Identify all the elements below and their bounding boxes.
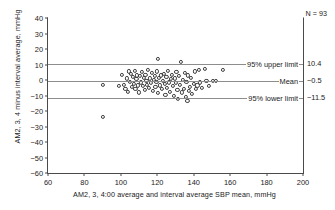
bland-altman-chart: AM2, 3, 4 minus interval average, mmHg 4…: [0, 0, 335, 210]
y-tick-label: −20: [30, 107, 48, 116]
plot-area: 403020100−10−20−30−40−50−606080100120140…: [47, 17, 304, 174]
reference-line-value: −11.5: [307, 92, 325, 101]
data-point: [151, 89, 155, 93]
x-tick-label: 120: [151, 173, 163, 187]
data-point: [175, 88, 179, 92]
x-tick-label: 180: [260, 173, 272, 187]
data-point: [193, 69, 197, 73]
data-point: [189, 76, 193, 80]
data-point: [182, 86, 186, 90]
x-tick-label: 60: [44, 173, 52, 187]
x-tick-label: 200: [297, 173, 309, 187]
y-tick-label: 10: [35, 60, 48, 69]
data-point: [180, 90, 184, 94]
reference-line-value: 10.4: [307, 58, 321, 67]
y-tick-label: 30: [35, 29, 48, 38]
reference-line-label: 95% upper limit: [246, 59, 299, 68]
reference-line-label: Mean: [279, 76, 300, 85]
data-point: [221, 68, 225, 72]
data-point: [193, 87, 197, 91]
data-point: [203, 67, 207, 71]
y-tick-label: −50: [30, 153, 48, 162]
data-point: [197, 68, 201, 72]
data-point: [101, 83, 105, 87]
y-tick-label: −40: [30, 138, 48, 147]
y-tick-label: −10: [30, 91, 48, 100]
data-point: [120, 72, 124, 76]
y-tick-label: 0: [39, 76, 48, 85]
data-point: [200, 86, 204, 90]
data-point: [153, 85, 157, 89]
data-point: [126, 90, 130, 94]
data-point: [190, 92, 194, 96]
data-point: [188, 85, 192, 89]
reference-line-value: −0.5: [307, 75, 322, 84]
data-point: [156, 91, 160, 95]
x-axis-label: AM2, 3, 4:00 average and interval averag…: [47, 190, 302, 199]
data-point: [143, 72, 147, 76]
data-point: [156, 57, 160, 61]
data-point: [207, 84, 211, 88]
reference-line-label: 95% lower limit: [247, 93, 299, 102]
data-point: [132, 69, 136, 73]
sample-size-annotation: N = 93: [306, 9, 327, 18]
x-tick-label: 160: [224, 173, 236, 187]
data-point: [117, 84, 121, 88]
data-point: [160, 87, 164, 91]
data-point: [142, 88, 146, 92]
reference-line: [48, 81, 303, 82]
data-point: [137, 90, 141, 94]
x-tick-label: 100: [115, 173, 127, 187]
x-tick-label: 140: [188, 173, 200, 187]
data-point: [164, 75, 168, 79]
y-tick-label: 40: [35, 14, 48, 23]
data-point: [163, 93, 167, 97]
y-tick-label: 20: [35, 45, 48, 54]
y-axis-label: AM2, 3, 4 minus interval average, mmHg: [13, 2, 22, 152]
data-point: [152, 74, 156, 78]
x-tick-label: 80: [80, 173, 88, 187]
data-point: [185, 99, 189, 103]
data-point: [132, 82, 136, 86]
data-point: [168, 90, 172, 94]
data-point: [101, 115, 105, 119]
y-tick-label: −30: [30, 122, 48, 131]
